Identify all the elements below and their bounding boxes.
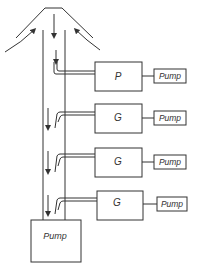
pump-label-2: Pump (159, 113, 181, 123)
pump-label-1: Pump (159, 71, 181, 81)
unit-label-1: P (115, 71, 122, 82)
main-pump-label: Pump (43, 231, 67, 241)
pump-label-3: Pump (159, 157, 181, 167)
main-pump-box[interactable] (31, 220, 81, 262)
airflow-arrow-left (5, 30, 34, 52)
unit-label-2: G (114, 112, 122, 123)
branch-pipe-1 (54, 62, 95, 74)
branch-pipe-2 (55, 112, 95, 128)
diagram-canvas: P Pump G Pump G Pump G Pump Pump (0, 0, 198, 265)
unit-label-4: G (113, 197, 121, 208)
pump-label-4: Pump (161, 199, 183, 209)
branch-pipe-4 (55, 198, 97, 214)
unit-label-3: G (114, 156, 122, 167)
